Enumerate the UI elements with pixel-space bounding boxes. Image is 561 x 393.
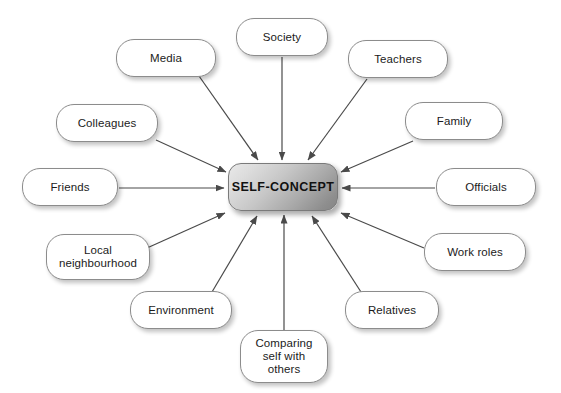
central-node-label: SELF-CONCEPT <box>232 180 335 194</box>
node-officials[interactable]: Officials <box>436 168 536 206</box>
node-label-society: Society <box>257 31 307 44</box>
node-media[interactable]: Media <box>116 39 216 77</box>
arrow-teachers-to-self-concept <box>308 79 367 160</box>
node-label-relatives: Relatives <box>362 304 422 317</box>
node-teachers[interactable]: Teachers <box>348 40 448 78</box>
node-label-work-roles: Work roles <box>441 246 509 259</box>
node-friends[interactable]: Friends <box>22 168 118 206</box>
node-family[interactable]: Family <box>405 102 503 140</box>
node-colleagues[interactable]: Colleagues <box>56 104 158 142</box>
node-local-neighbourhood[interactable]: Local neighbourhood <box>46 234 150 280</box>
arrow-local-neighbourhood-to-self-concept <box>147 213 225 248</box>
node-society[interactable]: Society <box>236 18 328 56</box>
central-node-self-concept[interactable]: SELF-CONCEPT <box>228 163 338 211</box>
node-label-officials: Officials <box>459 181 513 194</box>
node-label-colleagues: Colleagues <box>72 117 143 130</box>
node-label-family: Family <box>431 115 477 128</box>
node-label-media: Media <box>144 52 188 65</box>
arrow-relatives-to-self-concept <box>312 216 361 292</box>
diagram-canvas: SELF-CONCEPT MediaSocietyTeachersFamilyO… <box>0 0 561 393</box>
arrow-family-to-self-concept <box>341 141 413 172</box>
node-label-environment: Environment <box>142 304 220 317</box>
arrow-environment-to-self-concept <box>212 216 257 292</box>
node-label-comparing-self: Comparing self with others <box>249 337 318 376</box>
node-work-roles[interactable]: Work roles <box>424 233 526 271</box>
node-label-friends: Friends <box>44 181 95 194</box>
node-label-teachers: Teachers <box>368 53 427 66</box>
arrow-colleagues-to-self-concept <box>156 140 226 172</box>
arrow-work-roles-to-self-concept <box>341 213 424 248</box>
node-comparing-self[interactable]: Comparing self with others <box>240 330 328 383</box>
node-environment[interactable]: Environment <box>130 291 232 329</box>
arrow-media-to-self-concept <box>199 76 258 160</box>
node-relatives[interactable]: Relatives <box>345 291 439 329</box>
node-label-local-neighbourhood: Local neighbourhood <box>53 244 143 270</box>
